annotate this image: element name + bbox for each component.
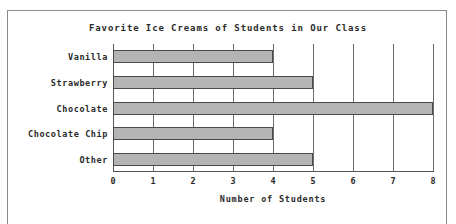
plot-area (113, 44, 433, 172)
y-axis-label-chocolate: Chocolate (0, 104, 108, 114)
bar-row (113, 102, 433, 115)
x-tick-label: 6 (343, 176, 363, 186)
y-axis-label-other: Other (0, 155, 108, 165)
bar (113, 153, 313, 166)
bar (113, 50, 273, 63)
bar-row (113, 76, 433, 89)
x-tick-label: 5 (303, 176, 323, 186)
x-tick-label: 1 (143, 176, 163, 186)
bar (113, 76, 313, 89)
bar-row (113, 50, 433, 63)
x-tick-label: 3 (223, 176, 243, 186)
bar-row (113, 153, 433, 166)
x-tick-label: 2 (183, 176, 203, 186)
x-axis-line (113, 171, 434, 172)
gridline-x-8 (433, 44, 434, 172)
y-axis-label-strawberry: Strawberry (0, 78, 108, 88)
y-axis-label-vanilla: Vanilla (0, 52, 108, 62)
bar (113, 102, 433, 115)
bar (113, 127, 273, 140)
y-axis-label-chocolate-chip: Chocolate Chip (0, 129, 108, 139)
y-axis-category-labels: VanillaStrawberryChocolateChocolate Chip… (0, 44, 108, 172)
x-axis-tick-labels: 012345678 (113, 176, 433, 190)
x-tick-label: 7 (383, 176, 403, 186)
chart-screenshot: Favorite Ice Creams of Students in Our C… (0, 0, 456, 224)
x-tick-label: 0 (103, 176, 123, 186)
x-tick-label: 8 (423, 176, 443, 186)
x-axis-title: Number of Students (113, 194, 433, 204)
x-tick-label: 4 (263, 176, 283, 186)
chart-title: Favorite Ice Creams of Students in Our C… (0, 23, 456, 33)
bar-row (113, 127, 433, 140)
